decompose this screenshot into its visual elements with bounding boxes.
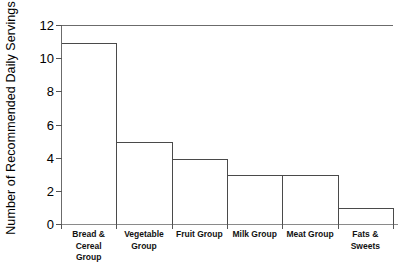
x-tick-mark: [61, 224, 62, 229]
x-tick-label: Fruit Group: [172, 229, 227, 241]
x-tick-label-line: Meat Group: [282, 229, 337, 241]
x-tick-label: VegetableGroup: [116, 229, 171, 252]
x-tick-label-line: Bread &: [61, 229, 116, 241]
y-tick-label: 2: [24, 184, 54, 197]
bar: [339, 208, 394, 225]
bar-chart-figure: Number of Recommended Daily Servings 024…: [0, 0, 411, 270]
bar: [62, 43, 117, 225]
bar: [173, 159, 228, 225]
y-tick-label: 12: [24, 19, 54, 32]
y-tick-mark: [56, 58, 62, 59]
x-tick-label-line: Fats &: [338, 229, 393, 241]
y-tick-label: 4: [24, 151, 54, 164]
x-tick-mark: [116, 224, 117, 229]
x-tick-label-line: Group: [61, 252, 116, 264]
x-tick-label-line: Cereal: [61, 241, 116, 253]
x-tick-mark: [393, 224, 394, 229]
x-tick-mark: [172, 224, 173, 229]
y-tick-mark: [56, 191, 62, 192]
y-tick-label: 8: [24, 85, 54, 98]
x-tick-mark: [338, 224, 339, 229]
x-tick-mark: [227, 224, 228, 229]
y-axis-title: Number of Recommended Daily Servings: [0, 0, 22, 235]
x-tick-label-line: Group: [116, 241, 171, 253]
x-tick-label-line: Milk Group: [227, 229, 282, 241]
y-tick-label: 6: [24, 118, 54, 131]
y-tick-label: 0: [24, 218, 54, 231]
y-axis-title-text: Number of Recommended Daily Servings: [4, 1, 18, 235]
bar: [228, 175, 283, 225]
x-tick-label: Meat Group: [282, 229, 337, 241]
x-tick-label: Bread &CerealGroup: [61, 229, 116, 264]
x-tick-label-line: Fruit Group: [172, 229, 227, 241]
plot-area: [61, 25, 393, 224]
x-tick-label: Fats &Sweets: [338, 229, 393, 252]
x-tick-label-line: Sweets: [338, 241, 393, 253]
x-tick-mark: [282, 224, 283, 229]
bar: [283, 175, 338, 225]
y-tick-mark: [56, 91, 62, 92]
y-tick-mark: [56, 125, 62, 126]
bars-layer: [62, 26, 394, 225]
x-axis-tick-labels: Bread &CerealGroupVegetableGroupFruit Gr…: [61, 229, 393, 270]
bar: [117, 142, 172, 225]
y-axis-tick-labels: 024681012: [24, 0, 54, 270]
y-tick-mark: [56, 25, 62, 26]
x-tick-label-line: Vegetable: [116, 229, 171, 241]
y-tick-mark: [56, 158, 62, 159]
y-tick-label: 10: [24, 52, 54, 65]
x-tick-label: Milk Group: [227, 229, 282, 241]
